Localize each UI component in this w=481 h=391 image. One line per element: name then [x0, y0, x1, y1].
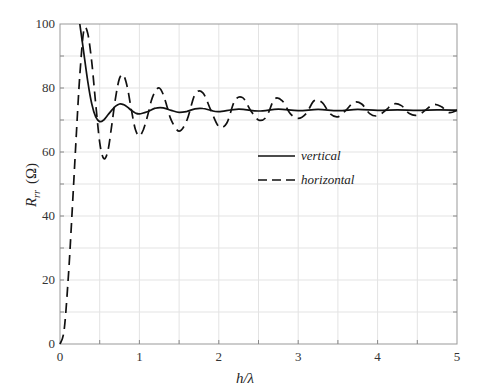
x-tick-labels: 012345 — [57, 349, 461, 364]
y-axis-label-main: R — [23, 198, 39, 208]
y-tick-label: 60 — [42, 144, 55, 159]
y-tick-label: 40 — [42, 208, 55, 223]
y-tick-label: 80 — [42, 80, 55, 95]
series-vertical — [80, 24, 457, 122]
x-tick-label: 1 — [136, 349, 143, 364]
x-tick-label: 4 — [374, 349, 381, 364]
y-tick-label: 20 — [42, 272, 55, 287]
legend: vertical horizontal — [258, 148, 355, 187]
legend-label-horizontal: horizontal — [301, 172, 355, 187]
chart-figure: vertical horizontal 012345 020406080100 … — [0, 0, 481, 391]
y-axis-label-subscript: rr — [31, 190, 42, 198]
x-tick-label: 5 — [454, 349, 461, 364]
y-axis-label-unit: (Ω) — [23, 163, 40, 184]
grid-lines — [60, 24, 457, 344]
x-tick-label: 3 — [295, 349, 302, 364]
y-axis-label: Rrr(Ω) — [23, 163, 42, 208]
y-tick-label: 100 — [36, 16, 56, 31]
y-tick-label: 0 — [49, 336, 56, 351]
legend-label-vertical: vertical — [301, 148, 341, 163]
x-tick-label: 2 — [216, 349, 223, 364]
x-axis-label: h/λ — [236, 370, 255, 386]
x-tick-label: 0 — [57, 349, 64, 364]
